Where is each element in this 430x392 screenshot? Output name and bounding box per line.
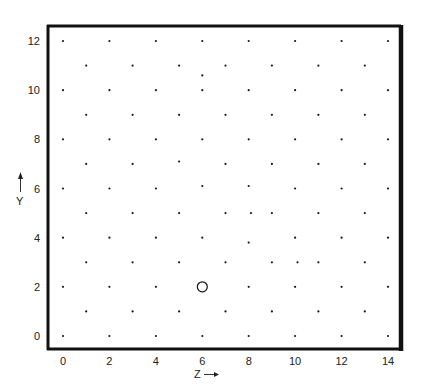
data-point [155,286,157,288]
data-point [224,212,226,214]
y-tick-label: 0 [34,330,40,342]
data-point [294,187,296,189]
data-point [178,160,180,162]
arrow-right-icon [214,372,219,377]
data-point [224,261,226,263]
data-point [108,40,110,42]
y-tick-labels: 024681012 [28,35,40,342]
data-point [271,261,273,263]
data-point [155,237,157,239]
y-tick-label: 12 [28,35,40,47]
data-point [178,310,180,312]
data-point [62,89,64,91]
data-point [271,212,273,214]
data-point [248,89,250,91]
data-point [387,89,389,91]
x-tick-label: 14 [382,355,394,367]
data-point [271,65,273,67]
data-point [294,89,296,91]
data-point [224,114,226,116]
y-tick-label: 2 [34,281,40,293]
data-point [155,89,157,91]
data-point [85,310,87,312]
data-point [132,114,134,116]
data-point [224,65,226,67]
data-point [364,212,366,214]
x-tick-labels: 02468101214 [60,355,394,367]
y-axis-label: Y [16,172,24,207]
y-tick-label: 10 [28,84,40,96]
data-point [248,286,250,288]
data-point [364,310,366,312]
data-point [387,138,389,140]
data-point [85,261,87,263]
data-point [132,163,134,165]
data-point [201,185,203,187]
data-point [364,261,366,263]
data-point [341,40,343,42]
data-point [317,65,319,67]
data-point [155,138,157,140]
data-point [364,114,366,116]
data-point [201,40,203,42]
data-point [341,286,343,288]
data-point [108,237,110,239]
data-point [317,212,319,214]
data-point [317,114,319,116]
data-point [294,335,296,337]
data-point [294,237,296,239]
data-point [62,138,64,140]
data-point [341,187,343,189]
data-point [341,138,343,140]
x-tick-label: 2 [106,355,112,367]
data-point [271,163,273,165]
data-point [201,237,203,239]
data-point [317,310,319,312]
data-point [224,163,226,165]
lattice-points [62,40,389,337]
data-point [250,212,252,214]
data-point [62,40,64,42]
data-point [248,242,250,244]
y-tick-label: 4 [34,232,40,244]
data-point [155,335,157,337]
data-point [178,212,180,214]
data-point [178,65,180,67]
dot-field-plot: 02468101214 024681012 Z Y [0,0,430,392]
data-point [85,65,87,67]
data-point [132,65,134,67]
data-point [132,310,134,312]
x-tick-label: 12 [335,355,347,367]
x-tick-label: 10 [289,355,301,367]
data-point [387,237,389,239]
x-axis-label: Z [194,368,219,380]
data-point [248,40,250,42]
data-point [248,335,250,337]
data-point [387,335,389,337]
data-point [271,310,273,312]
data-point [62,237,64,239]
data-point [296,261,298,263]
data-point [132,261,134,263]
data-point [178,261,180,263]
data-point [201,138,203,140]
data-point [294,40,296,42]
arrow-up-icon [18,172,23,179]
data-point [364,65,366,67]
data-point [62,335,64,337]
data-point [201,89,203,91]
data-point [108,286,110,288]
y-tick-label: 8 [34,133,40,145]
x-tick-label: 8 [246,355,252,367]
y-tick-label: 6 [34,183,40,195]
data-point [224,310,226,312]
data-point [248,138,250,140]
data-point [85,212,87,214]
plot-frame [47,25,402,351]
x-tick-label: 6 [199,355,205,367]
annotations [197,282,207,292]
data-point [85,163,87,165]
x-tick-label: 0 [60,355,66,367]
data-point [155,40,157,42]
data-point [294,286,296,288]
